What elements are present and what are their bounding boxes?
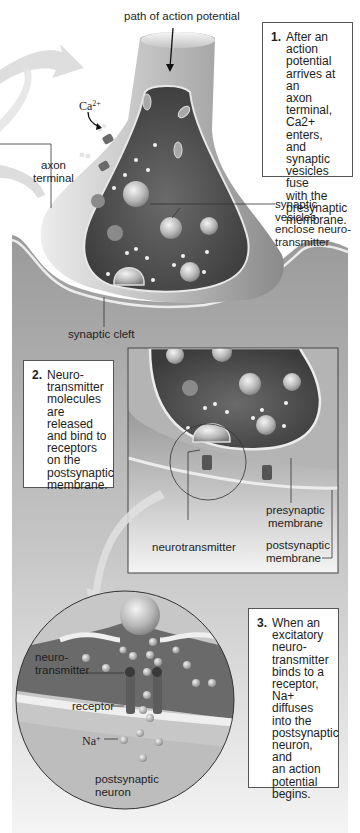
ion-symbol: Na — [82, 734, 96, 748]
step-text: Neuro- transmitter molecules are release… — [47, 369, 107, 491]
label-path-of-action-potential: path of action potential — [124, 10, 240, 23]
label-postsynaptic-membrane: postsynaptic membrane — [266, 539, 330, 564]
label-presynaptic-membrane: presynaptic membrane — [266, 504, 325, 529]
receptor-channel — [262, 465, 272, 480]
label-receptor: receptor — [72, 700, 114, 713]
step-1-box: 1. After an action potential arrives at … — [262, 22, 353, 177]
ion-charge: + — [96, 734, 101, 743]
axon-cytoplasm — [84, 86, 248, 292]
mitochondrion — [174, 142, 182, 158]
ion-symbol: Ca — [79, 99, 92, 113]
step-number: 3. — [257, 617, 267, 629]
receptor-channel — [202, 455, 212, 470]
step-number: 2. — [32, 369, 42, 381]
label-zoom-neurotransmitter: neuro- transmitter — [35, 651, 89, 676]
faded-arrow-top — [0, 44, 84, 84]
receptor-left — [126, 672, 135, 714]
label-axon-terminal: axon terminal — [33, 159, 74, 184]
label-neurotransmitter: neurotransmitter — [152, 541, 236, 554]
step-2-box: 2. Neuro- transmitter molecules are rele… — [23, 360, 114, 488]
label-sodium-ion: Na+ — [82, 733, 101, 748]
synapse-diagram: path of action potential Ca2+ axon termi… — [0, 0, 360, 833]
label-postsynaptic-neuron: postsynaptic neuron — [95, 773, 159, 798]
ion-charge: 2+ — [92, 99, 101, 108]
mitochondrion — [143, 94, 151, 110]
step-number: 1. — [271, 31, 281, 43]
label-calcium-ion: Ca2+ — [79, 98, 101, 113]
step-text: When an excitatory neuro- transmitter bi… — [272, 617, 332, 800]
label-synaptic-cleft: synaptic cleft — [68, 328, 134, 341]
step-text: After an action potential arrives at an … — [286, 31, 346, 226]
step-3-box: 3. When an excitatory neuro- transmitter… — [248, 608, 339, 788]
receptor-right — [153, 672, 162, 714]
